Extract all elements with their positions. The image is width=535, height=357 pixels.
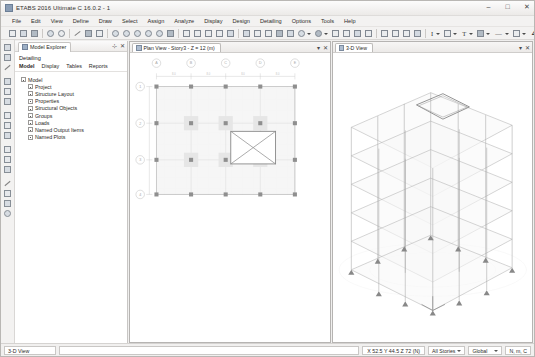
menu-item-view[interactable]: View <box>46 18 68 24</box>
draw-grid-icon[interactable] <box>3 189 12 198</box>
plan-view-icon[interactable] <box>193 29 202 38</box>
chevron-down-icon[interactable] <box>486 33 490 35</box>
menu-item-help[interactable]: Help <box>339 18 361 24</box>
menu-item-options[interactable]: Options <box>287 18 316 24</box>
draw-point-object-icon[interactable] <box>3 199 12 208</box>
draw-angle-text-icon[interactable]: ∠ <box>531 29 534 37</box>
menu-item-draw[interactable]: Draw <box>94 18 117 24</box>
menu-item-tools[interactable]: Tools <box>316 18 339 24</box>
pointer-select-icon[interactable] <box>3 43 12 52</box>
open-model-icon[interactable] <box>19 29 28 38</box>
undo-icon[interactable] <box>46 29 55 38</box>
tab-3d-view[interactable]: 3-D View <box>335 43 373 53</box>
redo-icon[interactable] <box>57 29 66 38</box>
perspective-toggle-icon[interactable] <box>275 29 284 38</box>
zoom-out-icon[interactable] <box>122 29 131 38</box>
restore-window-button[interactable]: ▾ <box>519 45 522 51</box>
tree-node-named-plots[interactable]: Named Plots <box>21 134 127 141</box>
pan-icon[interactable] <box>166 29 175 38</box>
set-display-options-icon[interactable] <box>226 29 235 38</box>
expand-collapse-icon[interactable] <box>28 99 33 104</box>
zoom-previous-icon[interactable] <box>133 29 142 38</box>
tree-node-model[interactable]: Model <box>21 76 127 83</box>
expand-collapse-icon[interactable] <box>28 106 33 111</box>
menu-item-analyze[interactable]: Analyze <box>169 18 199 24</box>
quick-draw-column-icon[interactable] <box>3 155 12 164</box>
draw-floor-icon[interactable] <box>3 111 12 120</box>
grid-snap-icon[interactable] <box>342 29 351 38</box>
draw-box-icon[interactable] <box>476 29 485 38</box>
maximize-button[interactable]: □ <box>502 3 513 11</box>
quick-draw-floor-icon[interactable] <box>3 165 12 174</box>
units-selector[interactable]: N, m, C <box>505 346 531 355</box>
chevron-down-icon[interactable] <box>453 33 457 35</box>
draw-wall-icon[interactable] <box>3 121 12 130</box>
expand-collapse-icon[interactable] <box>28 127 33 132</box>
tree-node-loads[interactable]: Loads <box>21 119 127 126</box>
subtab-model[interactable]: Model <box>19 63 35 69</box>
draw-line-icon[interactable] <box>3 63 12 72</box>
zoom-in-icon[interactable] <box>111 29 120 38</box>
quick-draw-beam-icon[interactable] <box>3 145 12 154</box>
zoom-extents-icon[interactable] <box>144 29 153 38</box>
set-building-view-icon[interactable] <box>253 29 262 38</box>
reshape-icon[interactable] <box>3 53 12 62</box>
tree-node-structural-objects[interactable]: Structural Objects <box>21 105 127 112</box>
subtab-tables[interactable]: Tables <box>66 63 82 69</box>
tree-node-groups[interactable]: Groups <box>21 112 127 119</box>
3d-view-icon[interactable] <box>215 29 224 38</box>
chart-icon[interactable] <box>353 29 362 38</box>
menu-item-define[interactable]: Define <box>68 18 94 24</box>
restore-window-button[interactable]: ▾ <box>317 45 320 51</box>
chevron-down-icon[interactable] <box>505 33 509 35</box>
refresh-view-icon[interactable] <box>264 29 273 38</box>
draw-section-icon[interactable] <box>443 29 452 38</box>
menu-item-select[interactable]: Select <box>117 18 143 24</box>
menu-item-detailing[interactable]: Detailing <box>255 18 287 24</box>
joint-label-icon[interactable] <box>380 29 389 38</box>
run-analysis-icon[interactable] <box>95 29 104 38</box>
draw-column-icon[interactable] <box>3 87 12 96</box>
snap-icon[interactable] <box>331 29 340 38</box>
close-window-button[interactable]: ✕ <box>525 45 530 51</box>
chevron-down-icon[interactable] <box>436 33 440 35</box>
subtab-reports[interactable]: Reports <box>89 63 108 69</box>
subtab-display[interactable]: Display <box>42 63 60 69</box>
snap-options-icon[interactable] <box>3 209 12 218</box>
new-model-icon[interactable] <box>8 29 17 38</box>
expand-collapse-icon[interactable] <box>28 120 33 125</box>
draw-beam-text-icon[interactable]: I <box>431 30 433 37</box>
3d-view-canvas[interactable] <box>333 53 533 342</box>
minimize-button[interactable]: – <box>483 3 494 11</box>
display-options-icon[interactable] <box>413 29 422 38</box>
menu-item-file[interactable]: File <box>7 18 26 24</box>
frame-label-icon[interactable] <box>391 29 400 38</box>
rubber-band-zoom-icon[interactable] <box>182 29 191 38</box>
draw-brace-icon[interactable] <box>3 97 12 106</box>
tab-model-explorer[interactable]: Model Explorer <box>18 42 71 52</box>
save-model-icon[interactable] <box>30 29 39 38</box>
expand-collapse-icon[interactable] <box>21 77 26 82</box>
elevation-view-icon[interactable] <box>204 29 213 38</box>
menu-item-edit[interactable]: Edit <box>26 18 46 24</box>
menu-item-assign[interactable]: Assign <box>142 18 169 24</box>
tree-node-properties[interactable]: Properties <box>21 98 127 105</box>
draw-tee-text-icon[interactable]: T <box>462 30 466 37</box>
tree-node-project[interactable]: Project <box>21 83 127 90</box>
chevron-down-icon[interactable] <box>522 33 526 35</box>
tree-node-named-output-items[interactable]: Named Output Items <box>21 126 127 133</box>
expand-collapse-icon[interactable] <box>28 113 33 118</box>
menu-item-design[interactable]: Design <box>228 18 255 24</box>
tab-plan-view[interactable]: Plan View - Story3 - Z = 12 (m) <box>132 43 221 53</box>
object-assigns-icon[interactable] <box>242 29 251 38</box>
story-selector-dropdown[interactable]: All Stories <box>428 346 465 355</box>
chevron-down-icon[interactable] <box>469 33 473 35</box>
draw-dash-text-icon[interactable]: — <box>495 30 502 37</box>
chevron-down-icon[interactable] <box>307 33 311 35</box>
lock-icon[interactable] <box>84 29 93 38</box>
section-cut-icon[interactable] <box>297 29 306 38</box>
draw-dimension-icon[interactable] <box>3 179 12 188</box>
draw-rect-floor-icon[interactable] <box>3 131 12 140</box>
pin-panel-button[interactable]: ⊹ <box>112 43 117 49</box>
shell-label-icon[interactable] <box>402 29 411 38</box>
